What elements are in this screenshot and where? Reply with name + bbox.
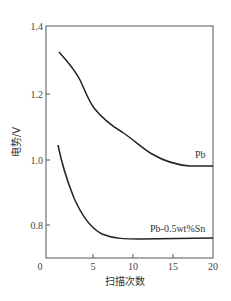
y-tick-label: 1.4 xyxy=(31,21,44,32)
series-label-pb-sn: Pb-0.5wt%Sn xyxy=(150,223,205,234)
y-axis-title: 电势/V xyxy=(10,127,22,157)
series-label-pb: Pb xyxy=(195,149,206,160)
x-tick-label: 0 xyxy=(38,261,43,272)
x-tick-label: 20 xyxy=(208,261,218,272)
series-line-pb xyxy=(59,52,213,166)
y-tick-label: 1.2 xyxy=(31,89,44,100)
x-tick-label: 10 xyxy=(128,261,138,272)
x-axis-title: 扫描次数 xyxy=(105,275,145,287)
x-tick-label: 15 xyxy=(168,261,178,272)
x-tick-label: 5 xyxy=(91,261,96,272)
x-axis xyxy=(93,254,173,258)
y-axis xyxy=(46,94,50,225)
y-tick-label: 0.8 xyxy=(31,220,44,231)
y-tick-label: 1.0 xyxy=(31,155,44,166)
chart: 1.4 1.2 1.0 0.8 0 5 10 15 20 扫描次数 电势/V P… xyxy=(0,0,231,301)
